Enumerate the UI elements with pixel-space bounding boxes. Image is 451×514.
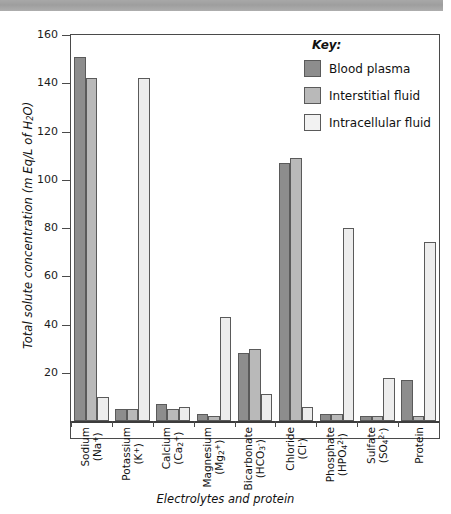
x-axis-title: Electrolytes and protein <box>0 492 451 506</box>
x-tick-mark <box>194 421 195 427</box>
y-tick-mark <box>62 132 70 133</box>
legend-item: Interstitial fluid <box>304 87 434 104</box>
x-category-name: Chloride <box>284 427 296 471</box>
bar <box>249 349 261 421</box>
x-category-formula: (K+) <box>132 427 144 481</box>
bar <box>74 57 86 421</box>
legend-item-label: Interstitial fluid <box>329 89 420 103</box>
bar-group <box>156 35 191 421</box>
y-tick-label: 120 <box>10 125 58 138</box>
x-category-formula: (Na+) <box>91 427 103 467</box>
x-tick-mark <box>235 421 236 427</box>
x-tick-mark <box>112 421 113 427</box>
y-tick-label: 40 <box>10 318 58 331</box>
legend-items: Blood plasmaInterstitial fluidIntracellu… <box>304 60 434 131</box>
bar <box>238 353 250 421</box>
bar <box>401 380 413 421</box>
bar <box>115 409 127 421</box>
bar <box>97 397 109 421</box>
bar <box>424 242 436 421</box>
x-category-name: Protein <box>413 427 425 464</box>
x-tick-mark <box>316 421 317 427</box>
y-tick-label: 60 <box>10 269 58 282</box>
bar <box>331 414 343 421</box>
x-category-name: Sodium <box>79 427 91 467</box>
bar <box>220 317 232 421</box>
bar <box>179 407 191 421</box>
legend-swatch-interstitial-fluid <box>304 87 321 104</box>
bar <box>156 404 168 421</box>
y-tick-mark <box>62 373 70 374</box>
legend-item: Blood plasma <box>304 60 434 77</box>
bar <box>197 414 209 421</box>
x-category-name: Calcium <box>160 427 172 469</box>
chart-figure: Total solute concentration (m Eq/L of H2… <box>0 18 451 514</box>
x-category-name: Magnesium <box>201 427 213 488</box>
x-tick-mark <box>357 421 358 427</box>
bar-group <box>115 35 150 421</box>
y-tick-label: 160 <box>10 28 58 41</box>
x-tick-mark <box>153 421 154 427</box>
x-tick-mark <box>439 421 440 427</box>
y-tick-label: 140 <box>10 76 58 89</box>
y-tick-mark <box>62 180 70 181</box>
bar <box>383 378 395 421</box>
y-tick-mark <box>62 276 70 277</box>
bar <box>138 78 150 421</box>
y-tick-label: 80 <box>10 221 58 234</box>
x-category-formula: (Mg2+) <box>213 427 227 488</box>
x-category-formula: (HCO3-) <box>254 427 268 490</box>
x-category-formula: (SO42-) <box>377 427 391 464</box>
bar <box>320 414 332 421</box>
bar-group <box>74 35 109 421</box>
x-category-formula: (HPO42-) <box>336 427 350 482</box>
x-axis-baseline <box>70 421 440 423</box>
bar <box>279 163 291 421</box>
x-tick-mark <box>398 421 399 427</box>
x-category-formula: (Ca2+) <box>172 427 186 469</box>
legend-title: Key: <box>312 38 434 52</box>
y-tick-mark <box>62 228 70 229</box>
x-category-name: Bicarbonate <box>242 427 254 490</box>
bar <box>290 158 302 421</box>
chart-legend: Key: Blood plasmaInterstitial fluidIntra… <box>304 38 434 141</box>
legend-item-label: Blood plasma <box>329 62 410 76</box>
bar <box>302 407 314 421</box>
x-tick-mark <box>275 421 276 427</box>
x-tick-mark <box>71 421 72 427</box>
legend-item-label: Intracellular fluid <box>329 116 431 130</box>
scan-banner <box>0 0 443 11</box>
bar <box>127 409 139 421</box>
x-category-name: Potassium <box>120 427 132 481</box>
y-tick-mark <box>62 35 70 36</box>
x-category-formula: (Cl-) <box>296 427 308 471</box>
bar <box>167 409 179 421</box>
y-tick-mark <box>62 325 70 326</box>
y-tick-mark <box>62 83 70 84</box>
bar <box>261 394 273 421</box>
legend-item: Intracellular fluid <box>304 114 434 131</box>
bar-group <box>238 35 273 421</box>
bar <box>343 228 355 421</box>
legend-swatch-blood-plasma <box>304 60 321 77</box>
x-category-name: Sulfate <box>364 427 376 464</box>
x-category-name: Phosphate <box>324 427 336 482</box>
y-tick-label: 100 <box>10 173 58 186</box>
bar-group <box>197 35 232 421</box>
legend-swatch-intracellular-fluid <box>304 114 321 131</box>
y-tick-label: 20 <box>10 366 58 379</box>
bar <box>86 78 98 421</box>
